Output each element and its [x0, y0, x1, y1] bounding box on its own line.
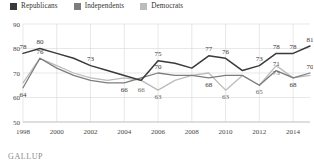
data-point-label: 63	[155, 93, 163, 101]
chart-container: RepublicansIndependentsDemocrats 5060708…	[0, 0, 313, 165]
x-axis-tick-label: 1998	[16, 128, 31, 136]
data-point-label: 66	[121, 86, 129, 94]
legend-label: Independents	[85, 2, 125, 10]
y-axis-tick-label: 90	[13, 21, 21, 29]
data-point-label: 71	[273, 60, 281, 68]
x-axis-tick-label: 2010	[219, 128, 234, 136]
legend-label: Democrats	[151, 2, 183, 10]
line-chart-svg: 5060708090199820002002200420062008201020…	[0, 18, 313, 146]
source-attribution: GALLUP	[8, 152, 43, 161]
data-point-label: 70	[307, 63, 314, 71]
data-point-label: 81	[307, 36, 314, 44]
data-point-label: 78	[273, 43, 281, 51]
y-axis-tick-label: 70	[13, 70, 21, 78]
data-point-label: 64	[20, 91, 28, 99]
data-point-label: 73	[87, 55, 95, 63]
y-axis-tick-label: 50	[13, 119, 21, 127]
data-point-label: 77	[205, 45, 213, 53]
data-point-label: 66	[138, 86, 146, 94]
x-axis-tick-label: 2008	[185, 128, 200, 136]
x-axis-tick-label: 2002	[84, 128, 99, 136]
data-point-label: 75	[155, 50, 163, 58]
data-point-label: 78	[20, 43, 28, 51]
data-point-label: 73	[273, 69, 281, 77]
legend-swatch-icon	[140, 3, 147, 10]
legend-label: Republicans	[21, 2, 58, 10]
legend-item-independents[interactable]: Independents	[74, 2, 125, 10]
x-axis-tick-label: 2004	[117, 128, 132, 136]
x-axis-tick-label: 2012	[252, 128, 267, 136]
data-point-label: 80	[36, 38, 44, 46]
chart-legend: RepublicansIndependentsDemocrats	[10, 2, 199, 10]
x-axis-tick-label: 2014	[286, 128, 301, 136]
data-point-label: 68	[290, 81, 298, 89]
x-axis-tick-label: 2000	[50, 128, 65, 136]
legend-swatch-icon	[74, 3, 81, 10]
data-point-label: 68	[205, 81, 213, 89]
plot-area: 5060708090199820002002200420062008201020…	[0, 18, 313, 146]
data-point-label: 78	[290, 43, 298, 51]
series-line-republicans	[23, 46, 310, 80]
data-point-label: 70	[155, 63, 163, 71]
data-point-label: 63	[222, 93, 230, 101]
x-axis-tick-label: 2006	[151, 128, 166, 136]
data-point-label: 65	[256, 88, 264, 96]
data-point-label: 76	[36, 48, 44, 56]
legend-item-republicans[interactable]: Republicans	[10, 2, 58, 10]
data-point-label: 76	[222, 48, 230, 56]
data-point-label: 73	[256, 55, 264, 63]
legend-item-democrats[interactable]: Democrats	[140, 2, 183, 10]
legend-swatch-icon	[10, 3, 17, 10]
